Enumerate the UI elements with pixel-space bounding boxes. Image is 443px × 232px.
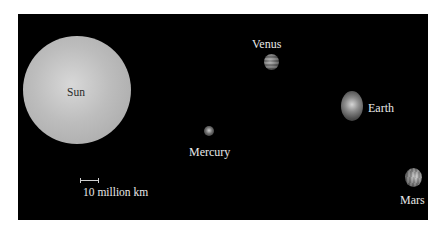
venus-sphere xyxy=(264,54,279,70)
earth-label: Earth xyxy=(368,102,394,114)
earth-sphere xyxy=(341,91,363,121)
sun-label: Sun xyxy=(67,86,85,98)
venus-label: Venus xyxy=(252,38,281,50)
scale-bar xyxy=(80,180,99,181)
scale-bar-label: 10 million km xyxy=(83,186,148,198)
mercury-sphere xyxy=(204,126,214,136)
solar-system-diagram: Sun Mercury Venus Earth Mars 10 million … xyxy=(18,14,428,220)
mars-label: Mars xyxy=(400,194,425,206)
mercury-label: Mercury xyxy=(189,146,230,158)
mars-sphere xyxy=(405,168,422,187)
